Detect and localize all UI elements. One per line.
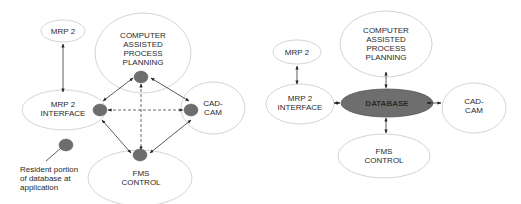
node-mrp2-right[interactable]: MRP 2: [273, 40, 321, 64]
right-diagram: MRP 2 COMPUTER ASSISTED PROCESS PLANNING…: [266, 11, 506, 178]
node-label: INTERFACE: [41, 109, 86, 118]
node-mrp2-interface-right[interactable]: MRP 2 INTERFACE: [266, 84, 334, 124]
node-label: FMS: [133, 169, 150, 178]
node-mrp2-left[interactable]: MRP 2: [41, 20, 85, 42]
edge-fms-to-cadcam: [150, 120, 191, 153]
node-label: CAD-: [203, 99, 223, 108]
resident-db-dot-capp: [134, 71, 148, 83]
legend: Resident portion of database at applicat…: [20, 139, 78, 192]
node-label: ASSISTED: [366, 35, 406, 44]
node-fms-control-right[interactable]: FMS CONTROL: [338, 134, 430, 178]
node-label: FMS: [376, 147, 393, 156]
node-label: MRP 2: [51, 27, 76, 36]
node-label: MRP 2: [288, 94, 313, 103]
node-label: CAM: [465, 106, 483, 115]
node-label: CAM: [204, 108, 222, 117]
legend-label: of database at: [20, 174, 71, 183]
legend-dot-icon: [59, 139, 73, 151]
resident-db-dot-fms: [133, 149, 147, 161]
node-label: COMPUTER: [120, 31, 166, 40]
node-label: ASSISTED: [123, 40, 163, 49]
legend-pointer-line: [46, 148, 61, 161]
node-label: PROCESS: [123, 49, 162, 58]
node-label: PLANNING: [366, 53, 407, 62]
left-diagram: MRP 2 COMPUTER ASSISTED PROCESS PLANNING…: [20, 13, 245, 204]
diagram-canvas: MRP 2 COMPUTER ASSISTED PROCESS PLANNING…: [0, 0, 521, 204]
node-label: INTERFACE: [278, 103, 323, 112]
node-label: CONTROL: [364, 156, 404, 165]
legend-label: application: [20, 183, 58, 192]
node-cad-cam-right[interactable]: CAD- CAM: [442, 83, 506, 133]
node-label: PLANNING: [123, 58, 164, 67]
node-label: CAD-: [464, 97, 484, 106]
edge-fms-to-interface: [102, 120, 131, 153]
node-label: MRP 2: [285, 48, 310, 57]
node-capp-right[interactable]: COMPUTER ASSISTED PROCESS PLANNING: [340, 11, 432, 77]
resident-db-dot-interface: [93, 104, 107, 116]
node-label: PROCESS: [366, 44, 405, 53]
node-label: CONTROL: [121, 178, 161, 187]
node-database[interactable]: DATABASE: [341, 89, 433, 117]
legend-label: Resident portion: [20, 165, 78, 174]
database-label: DATABASE: [365, 99, 409, 108]
node-label: MRP 2: [51, 100, 76, 109]
resident-db-dot-cadcam: [184, 104, 198, 116]
node-label: COMPUTER: [363, 26, 409, 35]
